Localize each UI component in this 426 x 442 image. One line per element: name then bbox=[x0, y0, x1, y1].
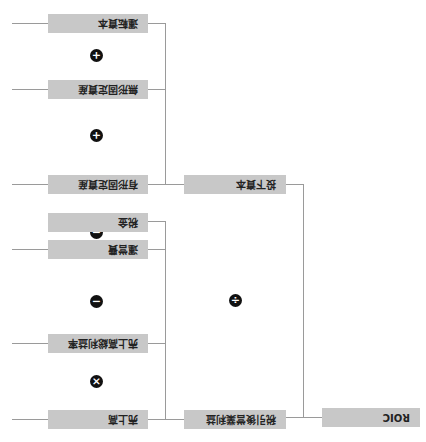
node-tangible-fixed-assets: 有形固定資産 bbox=[48, 175, 148, 194]
connector bbox=[148, 184, 166, 185]
connector bbox=[148, 249, 166, 250]
node-invested-capital: 投下資本 bbox=[184, 175, 286, 194]
connector bbox=[166, 419, 184, 420]
connector bbox=[148, 221, 166, 222]
connector bbox=[12, 184, 48, 185]
node-operating-expenses: 運営費 bbox=[48, 240, 148, 259]
multiply-icon: × bbox=[90, 375, 103, 388]
connector bbox=[165, 24, 166, 185]
node-taxes: 税金 bbox=[48, 213, 148, 232]
connector bbox=[286, 417, 304, 418]
connector bbox=[303, 184, 304, 418]
connector bbox=[166, 184, 184, 185]
connector bbox=[12, 343, 48, 344]
node-nopat: 税引後営業利益 bbox=[184, 410, 286, 429]
connector bbox=[12, 419, 48, 420]
connector bbox=[12, 249, 48, 250]
minus-icon: − bbox=[90, 295, 103, 308]
plus-icon: + bbox=[90, 129, 103, 142]
connector bbox=[12, 23, 48, 24]
connector bbox=[148, 89, 166, 90]
connector bbox=[286, 184, 304, 185]
node-gross-margin: 売上高総利益率 bbox=[48, 334, 148, 353]
roic-tree-diagram: ROIC 税引後営業利益 投下資本 ÷ 売上高 × 売上高総利益率 − 運営費 … bbox=[0, 0, 426, 442]
connector bbox=[148, 419, 166, 420]
node-roic: ROIC bbox=[322, 408, 420, 427]
node-sales: 売上高 bbox=[48, 410, 148, 429]
connector bbox=[12, 89, 48, 90]
connector bbox=[148, 23, 166, 24]
node-intangible-fixed-assets: 無形固定資産 bbox=[48, 80, 148, 99]
connector bbox=[148, 343, 166, 344]
connector bbox=[304, 417, 322, 418]
node-working-capital: 運転資本 bbox=[48, 14, 148, 33]
divide-icon: ÷ bbox=[229, 294, 242, 307]
plus-icon: + bbox=[90, 49, 103, 62]
connector bbox=[165, 221, 166, 420]
